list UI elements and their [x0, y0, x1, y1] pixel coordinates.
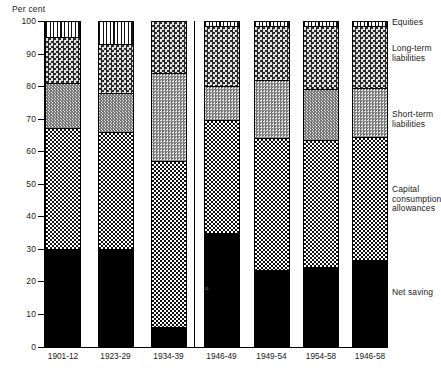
segment-1946-49-net-saving	[204, 233, 240, 347]
legend-label-net-saving: Net saving	[392, 288, 433, 298]
segment-1901-12-short-term-liabilities	[45, 83, 81, 129]
bar-1946-49	[204, 21, 240, 347]
segment-1923-29-equities	[98, 21, 134, 44]
segment-1923-29-capital-consumption-allowances	[98, 132, 134, 249]
y-axis-unit-label: Per cent	[12, 4, 45, 14]
x-label-1923-29: 1923-29	[86, 351, 146, 361]
group-separator-line	[194, 21, 195, 347]
y-tick-80	[38, 86, 45, 87]
y-tick-label-80: 80	[8, 81, 36, 91]
bar-1934-39	[151, 21, 187, 347]
segment-1949-54-equities	[254, 21, 290, 26]
y-tick-60	[38, 151, 45, 152]
legend-label-capital-consumption-allowances: Capital consumption allowances	[392, 185, 441, 214]
segment-1901-12-long-term-liabilities	[45, 37, 81, 83]
stray-mark: o	[205, 285, 208, 291]
x-label-1901-12: 1901-12	[33, 351, 93, 361]
y-tick-label-0: 0	[8, 342, 36, 352]
legend-label-short-term-liabilities: Short-term liabilities	[392, 110, 433, 129]
y-tick-label-30: 30	[8, 244, 36, 254]
segment-1901-12-equities	[45, 21, 81, 37]
x-label-1946-58: 1946-58	[340, 351, 400, 361]
segment-1934-39-net-saving	[151, 327, 187, 347]
y-tick-10	[38, 314, 45, 315]
x-axis-line	[44, 347, 388, 348]
segment-1934-39-capital-consumption-allowances	[151, 161, 187, 327]
y-tick-100	[38, 21, 45, 22]
x-label-1934-39: 1934-39	[139, 351, 199, 361]
y-tick-label-20: 20	[8, 276, 36, 286]
y-tick-label-10: 10	[8, 309, 36, 319]
y-tick-label-90: 90	[8, 49, 36, 59]
segment-1954-58-capital-consumption-allowances	[303, 140, 339, 267]
segment-1946-58-equities	[352, 21, 388, 26]
bar-1949-54	[254, 21, 290, 347]
legend-label-equities: Equities	[392, 18, 423, 28]
segment-1923-29-short-term-liabilities	[98, 93, 134, 132]
y-tick-90	[38, 54, 45, 55]
segment-1923-29-long-term-liabilities	[98, 44, 134, 93]
bar-1946-58	[352, 21, 388, 347]
segment-1949-54-net-saving	[254, 270, 290, 346]
segment-1946-49-long-term-liabilities	[204, 26, 240, 86]
segment-1954-58-equities	[303, 21, 339, 26]
y-tick-label-60: 60	[8, 146, 36, 156]
y-tick-20	[38, 281, 45, 282]
y-tick-50	[38, 184, 45, 185]
y-tick-label-70: 70	[8, 114, 36, 124]
y-tick-label-40: 40	[8, 211, 36, 221]
segment-1949-54-capital-consumption-allowances	[254, 138, 290, 270]
segment-1946-49-equities	[204, 21, 240, 26]
segment-1946-49-short-term-liabilities	[204, 86, 240, 120]
segment-1954-58-short-term-liabilities	[303, 89, 339, 139]
segment-1901-12-net-saving	[45, 249, 81, 347]
bar-1923-29	[98, 21, 134, 347]
bar-1954-58	[303, 21, 339, 347]
y-tick-30	[38, 249, 45, 250]
segment-1946-58-long-term-liabilities	[352, 26, 388, 88]
y-tick-0	[38, 347, 45, 348]
segment-1946-49-capital-consumption-allowances	[204, 120, 240, 232]
segment-1954-58-net-saving	[303, 267, 339, 347]
segment-1923-29-net-saving	[98, 249, 134, 347]
bar-1901-12	[45, 21, 81, 347]
segment-1934-39-short-term-liabilities	[151, 73, 187, 161]
segment-1949-54-short-term-liabilities	[254, 80, 290, 139]
y-tick-label-50: 50	[8, 179, 36, 189]
segment-1954-58-long-term-liabilities	[303, 26, 339, 89]
segment-1946-58-net-saving	[352, 260, 388, 346]
y-tick-40	[38, 216, 45, 217]
segment-1901-12-capital-consumption-allowances	[45, 128, 81, 248]
legend-label-long-term-liabilities: Long-term liabilities	[392, 44, 432, 63]
y-tick-70	[38, 119, 45, 120]
segment-1946-58-short-term-liabilities	[352, 88, 388, 137]
segment-1946-58-capital-consumption-allowances	[352, 137, 388, 261]
segment-1949-54-long-term-liabilities	[254, 26, 290, 80]
segment-1934-39-long-term-liabilities	[151, 21, 187, 73]
y-tick-label-100: 100	[8, 16, 36, 26]
